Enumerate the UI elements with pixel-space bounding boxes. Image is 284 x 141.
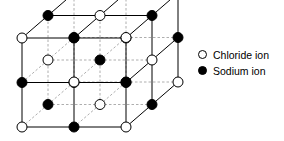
sodium-ion [69,33,79,43]
sodium-ion [69,122,79,132]
sodium-ion [43,100,53,110]
legend-label-chloride: Chloride ion [213,49,269,61]
nacl-lattice-figure: Chloride ion Sodium ion [0,0,284,141]
legend-label-sodium: Sodium ion [213,65,266,77]
sodium-ion [147,11,157,21]
chloride-ion [121,33,131,43]
chloride-ion [95,100,105,110]
sodium-ion [147,100,157,110]
open-circle-icon [198,50,207,59]
sodium-ion [17,78,27,88]
legend-item-sodium: Sodium ion [198,63,284,78]
chloride-ion [173,77,183,87]
sodium-ion [121,77,131,87]
chloride-ion [121,122,131,132]
sodium-ion [173,33,183,43]
chloride-ion [17,122,27,132]
sodium-ion [95,55,105,65]
legend-item-chloride: Chloride ion [198,47,284,62]
legend: Chloride ion Sodium ion [198,47,284,79]
chloride-ion [69,77,79,87]
chloride-ion [43,55,53,65]
chloride-ion [147,55,157,65]
chloride-ion [17,33,27,43]
filled-circle-icon [198,66,207,75]
sodium-ion [43,11,53,21]
chloride-ion [95,11,105,21]
